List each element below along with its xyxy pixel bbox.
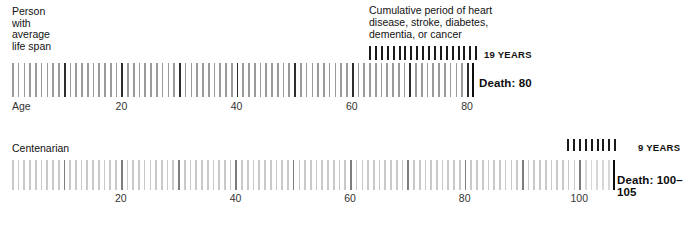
age-tick	[242, 63, 244, 97]
disease-year-tick	[585, 139, 587, 151]
age-tick	[265, 63, 267, 97]
axis-tick-label: 80	[459, 192, 471, 204]
age-tick	[58, 63, 60, 97]
age-tick	[432, 63, 434, 97]
lifespan-tick-rail-average	[0, 63, 693, 97]
disease-year-tick	[469, 46, 471, 60]
age-tick	[579, 160, 581, 190]
age-tick	[317, 63, 319, 97]
age-tick	[470, 160, 472, 190]
age-tick	[511, 160, 513, 190]
age-tick	[58, 160, 60, 190]
age-tick	[144, 160, 146, 190]
age-tick	[41, 160, 43, 190]
age-tick	[75, 63, 77, 97]
disease-year-tick	[399, 46, 401, 60]
age-tick	[390, 160, 392, 190]
age-tick	[367, 160, 369, 190]
age-tick	[230, 160, 232, 190]
age-tick	[447, 160, 449, 190]
age-tick	[568, 160, 570, 190]
age-tick	[551, 160, 553, 190]
age-tick	[202, 63, 204, 97]
age-tick	[225, 63, 227, 97]
age-tick	[585, 160, 587, 190]
age-tick	[545, 160, 547, 190]
disease-year-tick	[567, 139, 569, 151]
age-tick	[321, 160, 323, 190]
age-tick	[207, 160, 209, 190]
disease-year-tick	[597, 139, 599, 151]
death-marker-centenarian	[613, 160, 615, 190]
disease-year-tick	[410, 46, 412, 60]
age-tick	[528, 160, 530, 190]
age-tick	[98, 63, 100, 97]
age-tick	[121, 63, 123, 97]
age-tick	[556, 160, 558, 190]
age-tick	[24, 63, 26, 97]
age-tick	[386, 63, 388, 97]
disease-year-tick	[416, 46, 418, 60]
age-tick	[407, 160, 409, 190]
age-tick	[310, 160, 312, 190]
age-tick	[299, 160, 301, 190]
disease-year-tick	[452, 46, 454, 60]
age-tick	[488, 160, 490, 190]
age-tick	[93, 63, 95, 97]
age-tick	[127, 160, 129, 190]
age-tick	[162, 63, 164, 97]
age-tick	[172, 160, 174, 190]
age-tick	[52, 63, 54, 97]
age-tick	[381, 63, 383, 97]
age-tick	[116, 63, 118, 97]
age-tick	[352, 63, 354, 97]
age-tick	[288, 63, 290, 97]
age-tick	[277, 63, 279, 97]
age-tick	[591, 160, 593, 190]
age-tick	[35, 160, 37, 190]
age-tick	[375, 63, 377, 97]
disease-years-label-centenarian: 9 YEARS	[638, 142, 680, 153]
age-tick	[402, 160, 404, 190]
disease-years-label-average: 19 YEARS	[484, 49, 532, 60]
age-tick	[287, 160, 289, 190]
disease-year-tick	[428, 46, 430, 60]
age-tick	[86, 160, 88, 190]
age-tick	[150, 160, 152, 190]
age-tick	[340, 63, 342, 97]
age-tick	[522, 160, 524, 190]
age-tick	[427, 63, 429, 97]
age-tick	[235, 160, 237, 190]
age-tick	[300, 63, 302, 97]
age-tick	[294, 63, 296, 97]
age-tick	[421, 63, 423, 97]
age-tick	[52, 160, 54, 190]
age-tick	[335, 63, 337, 97]
age-tick	[253, 160, 255, 190]
age-tick	[415, 63, 417, 97]
age-tick	[224, 160, 226, 190]
age-tick	[363, 63, 365, 97]
age-tick	[467, 63, 469, 97]
age-tick	[184, 160, 186, 190]
disease-year-tick	[434, 46, 436, 60]
age-tick	[35, 63, 37, 97]
age-tick	[219, 63, 221, 97]
age-tick	[81, 63, 83, 97]
death-label-average: Death: 80	[479, 77, 532, 89]
age-tick	[47, 63, 49, 97]
age-tick	[64, 160, 66, 190]
age-tick	[29, 63, 31, 97]
disease-year-tick	[381, 46, 383, 60]
age-tick	[191, 63, 193, 97]
age-tick	[499, 160, 501, 190]
disease-year-tick	[422, 46, 424, 60]
age-tick	[133, 63, 135, 97]
disease-year-tick	[573, 139, 575, 151]
age-tick	[104, 160, 106, 190]
age-tick	[195, 160, 197, 190]
age-tick	[596, 160, 598, 190]
age-tick	[344, 160, 346, 190]
age-tick	[562, 160, 564, 190]
age-tick	[46, 160, 48, 190]
